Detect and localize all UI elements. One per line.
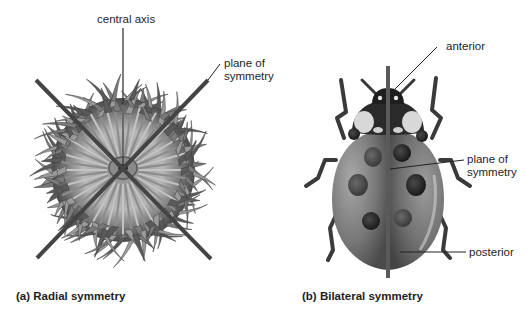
- caption-b: (b) Bilateral symmetry: [302, 290, 423, 302]
- ladybug-spot: [406, 174, 426, 196]
- ladybug-spot: [348, 128, 360, 140]
- ladybug-spot: [394, 209, 412, 227]
- plane-of-symmetry-label-a-line1: plane of: [224, 57, 274, 70]
- symmetry-figure: central axis plane of symmetry (a) Radia…: [0, 0, 526, 313]
- posterior-label: posterior: [469, 246, 514, 259]
- ladybug-eye-right: [394, 96, 398, 100]
- anemone-tentacle: [193, 163, 207, 168]
- ladybug-spot: [416, 130, 428, 142]
- anemone-tentacle: [157, 82, 161, 108]
- plane-of-symmetry-label-b: plane of symmetry: [467, 153, 517, 179]
- ladybug-leg: [306, 160, 336, 186]
- anemone-tentacle: [86, 79, 109, 101]
- ladybug-eye-left: [378, 96, 382, 100]
- caption-b-tag: (b): [302, 290, 317, 302]
- plane-of-symmetry-leader-a: [208, 64, 220, 80]
- ladybug-leg: [337, 80, 346, 138]
- ladybug-spot: [393, 144, 411, 162]
- ladybug-leg: [440, 160, 470, 186]
- caption-b-text: Bilateral symmetry: [320, 290, 423, 302]
- ladybug-pronotum-patch: [393, 127, 403, 133]
- plane-of-symmetry-label-b-line2: symmetry: [467, 166, 517, 179]
- anemone-tentacle: [130, 79, 140, 100]
- anterior-leader: [392, 47, 437, 92]
- bilateral-plane-of-symmetry-bar: [386, 66, 390, 278]
- caption-a-text: Radial symmetry: [33, 290, 125, 302]
- anemone-tentacle: [111, 74, 121, 101]
- ladybug-pronotum-patch-right: [402, 111, 422, 133]
- ladybug-spot: [348, 174, 368, 196]
- ladybug-leg: [432, 78, 441, 138]
- ladybug-pronotum-patch: [373, 127, 383, 133]
- plane-of-symmetry-label-a-line2: symmetry: [224, 70, 274, 83]
- central-axis-label: central axis: [97, 13, 155, 26]
- plane-of-symmetry-label-a: plane of symmetry: [224, 57, 274, 83]
- plane-of-symmetry-label-b-line1: plane of: [467, 153, 517, 166]
- anterior-label: anterior: [446, 40, 485, 53]
- ladybug-spot: [364, 147, 382, 167]
- ladybug-spot: [362, 212, 380, 230]
- anemone-tentacle: [47, 192, 59, 203]
- anemone-tentacle: [191, 131, 206, 158]
- anemone-tentacle: [43, 122, 79, 128]
- caption-a-tag: (a): [16, 290, 30, 302]
- caption-a: (a) Radial symmetry: [16, 290, 125, 302]
- anemone-tentacle: [190, 120, 192, 148]
